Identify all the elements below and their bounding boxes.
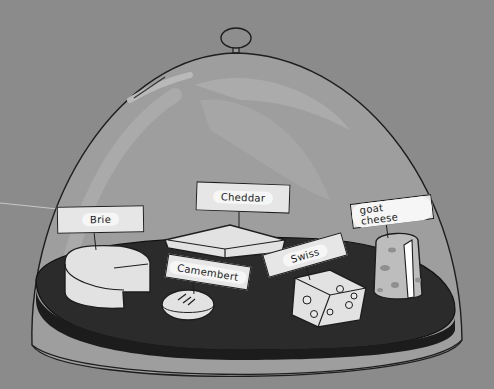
label-brie: Brie xyxy=(57,205,144,234)
knob-icon xyxy=(221,28,251,48)
goat-cheese xyxy=(374,233,422,299)
label-brie-text: Brie xyxy=(82,213,119,227)
label-cheddar-text: Cheddar xyxy=(213,190,274,205)
camembert-cheese xyxy=(162,290,214,320)
label-cheddar: Cheddar xyxy=(196,181,291,213)
pointer-line xyxy=(0,203,58,209)
cheese-dome-illustration: Brie Cheddar Camembert Swiss goat cheese xyxy=(0,0,494,389)
